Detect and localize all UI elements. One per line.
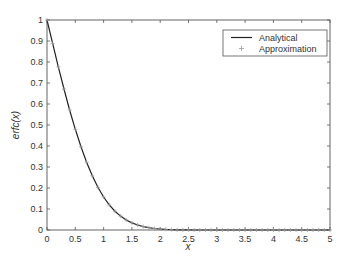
approximation-marker <box>243 228 247 232</box>
approximation-marker <box>198 228 202 232</box>
approximation-marker <box>237 228 241 232</box>
approximation-marker <box>203 228 207 232</box>
x-tick-label: 5 <box>327 234 332 244</box>
approximation-marker <box>51 42 55 46</box>
y-tick-label: 0.3 <box>30 162 43 172</box>
x-tick-label: 0.5 <box>69 234 82 244</box>
approximation-marker <box>136 223 140 227</box>
y-axis-label: erfc(x) <box>10 111 21 139</box>
approximation-marker <box>283 228 287 232</box>
y-tick-label: 1 <box>38 15 43 25</box>
y-tick-label: 0.9 <box>30 36 43 46</box>
approximation-marker <box>85 160 89 164</box>
approximation-marker <box>187 228 191 232</box>
x-tick-label: 0 <box>44 234 49 244</box>
approximation-marker <box>288 228 292 232</box>
x-tick-label: 4.5 <box>295 234 308 244</box>
legend: Analytical Approximation <box>223 30 327 56</box>
approximation-marker <box>300 228 304 232</box>
y-tick-label: 0 <box>38 225 43 235</box>
approximation-marker <box>192 228 196 232</box>
approximation-marker <box>147 226 151 230</box>
x-tick-label: 3 <box>214 234 219 244</box>
approximation-marker <box>62 87 66 91</box>
x-tick-label: 3.5 <box>239 234 252 244</box>
x-tick-label: 2 <box>158 234 163 244</box>
approximation-marker <box>141 225 145 229</box>
approximation-marker <box>305 228 309 232</box>
approximation-marker <box>232 228 236 232</box>
approximation-marker <box>79 145 83 149</box>
approximation-marker <box>311 228 315 232</box>
y-tick-label: 0.1 <box>30 204 43 214</box>
x-tick-label: 1 <box>101 234 106 244</box>
approximation-marker <box>322 228 326 232</box>
approximation-marker <box>181 228 185 232</box>
approximation-marker <box>130 221 134 225</box>
approximation-marker <box>164 227 168 231</box>
approximation-marker <box>215 228 219 232</box>
approximation-marker <box>56 65 60 69</box>
x-tick-label: 1.5 <box>126 234 139 244</box>
x-tick-label: 4 <box>271 234 276 244</box>
legend-label-approximation: Approximation <box>259 44 317 54</box>
approximation-marker <box>73 127 77 131</box>
approximation-marker <box>226 228 230 232</box>
approximation-marker <box>277 228 281 232</box>
y-tick-label: 0.6 <box>30 99 43 109</box>
approximation-marker <box>68 108 72 112</box>
y-tick-label: 0.4 <box>30 141 43 151</box>
approximation-marker <box>271 228 275 232</box>
approximation-marker <box>220 228 224 232</box>
approximation-marker <box>249 228 253 232</box>
erfc-chart: 00.511.522.533.544.5500.10.20.30.40.50.6… <box>0 0 345 269</box>
approximation-marker <box>266 228 270 232</box>
approximation-marker <box>45 18 49 22</box>
approximation-marker <box>317 228 321 232</box>
approximation-marker <box>260 228 264 232</box>
approximation-marker <box>209 228 213 232</box>
y-tick-label: 0.5 <box>30 120 43 130</box>
approximation-marker <box>254 228 258 232</box>
y-tick-label: 0.8 <box>30 57 43 67</box>
y-tick-label: 0.7 <box>30 78 43 88</box>
approximation-marker <box>294 228 298 232</box>
approximation-marker <box>175 228 179 232</box>
legend-label-analytical: Analytical <box>259 33 298 43</box>
approximation-marker <box>328 228 332 232</box>
approximation-marker <box>170 228 174 232</box>
y-tick-label: 0.2 <box>30 183 43 193</box>
approximation-marker <box>90 174 94 178</box>
x-axis-label: x <box>185 241 192 252</box>
